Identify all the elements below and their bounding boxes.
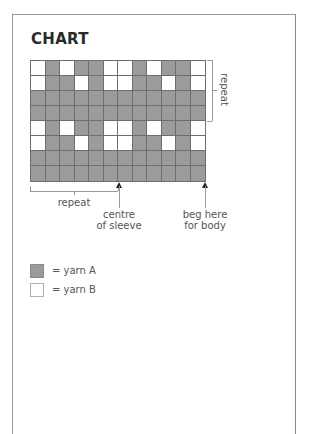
chart-cell — [46, 91, 61, 106]
chart-cell — [31, 106, 46, 121]
chart-cell — [60, 91, 75, 106]
chart-cell — [104, 166, 119, 181]
chart-cell — [60, 76, 75, 91]
chart-cell — [118, 91, 133, 106]
chart-cell — [147, 91, 162, 106]
yarn-a-swatch — [30, 264, 44, 278]
chart-cell — [118, 136, 133, 151]
chart-cell — [133, 121, 148, 136]
chart-cell — [75, 91, 90, 106]
chart-cell — [104, 76, 119, 91]
centre-of-sleeve-label: centre of sleeve — [84, 209, 154, 231]
chart-cell — [133, 91, 148, 106]
colorwork-chart-grid — [30, 60, 206, 182]
chart-cell — [60, 61, 75, 76]
chart-cell — [46, 106, 61, 121]
centre-label-line1: centre — [84, 209, 154, 220]
chart-cell — [147, 106, 162, 121]
chart-cell — [31, 76, 46, 91]
chart-cell — [118, 106, 133, 121]
beg-here-label: beg here for body — [170, 209, 240, 231]
chart-cell — [75, 166, 90, 181]
chart-cell — [191, 151, 206, 166]
legend-item-yarn-b: = yarn B — [30, 282, 96, 297]
chart-cell — [89, 91, 104, 106]
chart-cell — [104, 106, 119, 121]
chart-cell — [162, 136, 177, 151]
beg-label-line2: for body — [170, 220, 240, 231]
chart-cell — [162, 166, 177, 181]
chart-cell — [46, 61, 61, 76]
chart-cell — [75, 151, 90, 166]
chart-cell — [133, 151, 148, 166]
chart-cell — [60, 106, 75, 121]
chart-cell — [176, 151, 191, 166]
chart-cell — [89, 166, 104, 181]
chart-cell — [89, 151, 104, 166]
chart-cell — [133, 76, 148, 91]
chart-cell — [75, 136, 90, 151]
chart-cell — [147, 136, 162, 151]
chart-cell — [31, 136, 46, 151]
horizontal-repeat-label: repeat — [44, 197, 104, 208]
chart-cell — [75, 76, 90, 91]
chart-cell — [60, 151, 75, 166]
chart-cell — [176, 166, 191, 181]
chart-cell — [118, 166, 133, 181]
vertical-repeat-label: repeat — [219, 70, 230, 110]
chart-cell — [31, 166, 46, 181]
chart-cell — [46, 76, 61, 91]
chart-cell — [133, 106, 148, 121]
chart-cell — [60, 121, 75, 136]
chart-cell — [118, 76, 133, 91]
chart-cell — [191, 136, 206, 151]
chart-cell — [147, 61, 162, 76]
chart-cell — [46, 166, 61, 181]
chart-cell — [89, 106, 104, 121]
chart-cell — [46, 121, 61, 136]
yarn-b-label: = yarn B — [52, 284, 96, 295]
chart-cell — [176, 106, 191, 121]
chart-cell — [176, 121, 191, 136]
chart-cell — [118, 151, 133, 166]
chart-cell — [104, 61, 119, 76]
chart-cell — [104, 91, 119, 106]
vertical-bracket-tick — [212, 90, 217, 91]
chart-cell — [89, 136, 104, 151]
chart-cell — [133, 136, 148, 151]
chart-cell — [191, 61, 206, 76]
chart-cell — [118, 121, 133, 136]
chart-cell — [75, 121, 90, 136]
chart-cell — [46, 136, 61, 151]
chart-cell — [162, 121, 177, 136]
chart-cell — [162, 151, 177, 166]
chart-cell — [191, 121, 206, 136]
chart-cell — [147, 76, 162, 91]
vertical-bracket-cap-top — [207, 60, 212, 61]
chart-cell — [31, 61, 46, 76]
chart-cell — [147, 151, 162, 166]
horizontal-bracket-cap-left — [30, 186, 31, 191]
chart-cell — [133, 166, 148, 181]
chart-cell — [75, 106, 90, 121]
chart-cell — [147, 121, 162, 136]
chart-cell — [104, 136, 119, 151]
chart-cell — [176, 61, 191, 76]
beg-label-line1: beg here — [170, 209, 240, 220]
chart-cell — [133, 61, 148, 76]
chart-cell — [191, 166, 206, 181]
horizontal-bracket-tick — [74, 191, 75, 195]
legend-item-yarn-a: = yarn A — [30, 263, 96, 278]
chart-cell — [118, 61, 133, 76]
yarn-b-swatch — [30, 283, 44, 297]
chart-cell — [104, 151, 119, 166]
chart-cell — [176, 91, 191, 106]
chart-cell — [191, 106, 206, 121]
chart-cell — [46, 151, 61, 166]
chart-cell — [162, 61, 177, 76]
chart-cell — [75, 61, 90, 76]
centre-label-line2: of sleeve — [84, 220, 154, 231]
chart-cell — [104, 121, 119, 136]
chart-cell — [31, 121, 46, 136]
chart-cell — [176, 136, 191, 151]
